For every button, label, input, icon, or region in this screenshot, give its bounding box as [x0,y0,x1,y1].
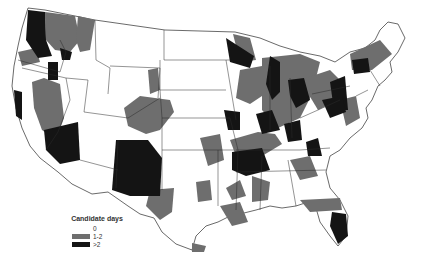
legend-label-0: 0 [93,225,97,232]
legend: Candidate days 0 1-2 >2 [57,215,137,248]
legend-label-gt-2: >2 [93,241,100,248]
legend-item-0: 0 [72,224,137,232]
legend-title: Candidate days [57,215,137,222]
legend-label-1-2: 1-2 [93,233,102,240]
legend-item-1-2: 1-2 [72,232,137,240]
legend-swatch-0 [72,226,90,231]
legend-swatch-1-2 [72,234,90,239]
legend-item-gt-2: >2 [72,240,137,248]
legend-swatch-gt-2 [72,242,90,247]
